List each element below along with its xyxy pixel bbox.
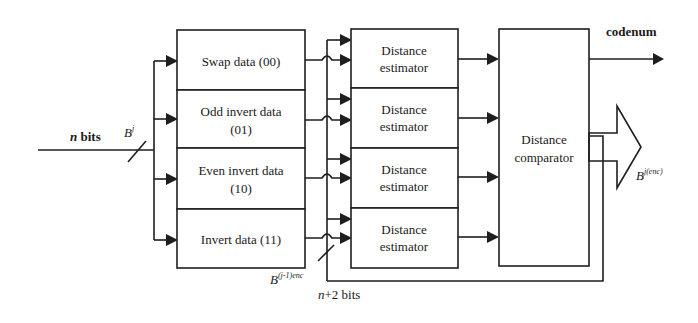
encoder-odd-code: (01) [230, 122, 252, 137]
arrow-right-icon [487, 171, 499, 183]
estimator-label: Distance [381, 222, 427, 237]
arrow-right-icon [653, 53, 664, 65]
encoded-data-output-arrow-icon [589, 106, 641, 188]
data-encoding-block-diagram: n bits Bj Swap data (00) Odd invert data… [0, 0, 698, 323]
previous-code-label: B(j-1)enc [270, 271, 304, 287]
estimator-label: Distance [381, 162, 427, 177]
input-width-n: n [70, 129, 77, 144]
encoder-invert-label: Invert data (11) [201, 232, 281, 247]
encoder-even-label: Even invert data [198, 163, 283, 178]
input-width-bits: bits [77, 129, 100, 144]
estimator-label: estimator [380, 239, 429, 254]
encoded-data-label: Bj(enc) [636, 167, 663, 183]
arrow-right-icon [487, 231, 499, 243]
encoder-even-invert-box [177, 148, 305, 209]
arrow-right-icon [487, 53, 499, 65]
estimator-label: estimator [380, 60, 429, 75]
input-bus-label: Bj [124, 124, 135, 140]
estimator-stack: Distance estimator Distance estimator Di… [351, 29, 458, 268]
encoder-even-code: (10) [230, 181, 252, 196]
codenum-label: codenum [606, 24, 657, 39]
outputs: codenum Bj(enc) [589, 24, 664, 188]
encoder-odd-label: Odd invert data [201, 104, 282, 119]
encoder-stack: Swap data (00) Odd invert data (01) Even… [177, 30, 305, 268]
input-bus: n bits Bj [38, 124, 154, 162]
estimator-label: estimator [380, 119, 429, 134]
estimator-label: Distance [381, 102, 427, 117]
estimator-label: Distance [381, 43, 427, 58]
comparator-label: comparator [514, 150, 574, 165]
encoder-odd-invert-box [177, 90, 305, 148]
distance-comparator-box [499, 29, 589, 266]
svg-text:n bits: n bits [70, 129, 101, 144]
encoder-swap-label: Swap data (00) [202, 54, 281, 69]
distance-estimator-box [351, 29, 458, 88]
estimator-label: estimator [380, 179, 429, 194]
distance-estimator-box [351, 148, 458, 208]
comparator-label: Distance [521, 132, 567, 147]
encoder-fanout [154, 55, 178, 246]
bus-width-slash-icon [318, 245, 334, 261]
arrow-right-icon [487, 112, 499, 124]
estimator-outputs [458, 53, 499, 243]
feedback-labels: B(j-1)enc n+2 bits [270, 271, 360, 302]
distance-comparator: Distance comparator [499, 29, 589, 266]
distance-estimator-box [351, 88, 458, 148]
distance-estimator-box [351, 208, 458, 268]
feedback-width-label: n+2 bits [318, 287, 360, 302]
bus-width-slash-icon [128, 141, 146, 162]
